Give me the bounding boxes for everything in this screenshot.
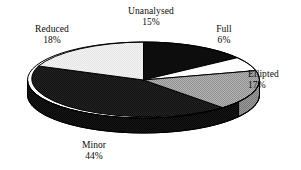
- pie-label-reduced-percent: 18%: [12, 35, 92, 46]
- pie-label-full-name: Full: [194, 24, 254, 35]
- pie-label-unanalysed-name: Unanalysed: [106, 6, 196, 17]
- pie-label-minor-name: Minor: [56, 140, 132, 151]
- pie-chart: Unanalysed 15% Full 6% Ellipted 17% Mino…: [0, 0, 301, 170]
- pie-label-unanalysed-percent: 15%: [106, 17, 196, 28]
- pie-label-minor-percent: 44%: [56, 151, 132, 162]
- pie-label-reduced-name: Reduced: [12, 24, 92, 35]
- pie-label-unanalysed: Unanalysed 15%: [106, 6, 196, 27]
- pie-label-ellipted: Ellipted 17%: [248, 69, 301, 90]
- pie-label-ellipted-name: Ellipted: [248, 69, 301, 80]
- pie-label-ellipted-percent: 17%: [248, 80, 301, 91]
- pie-label-minor: Minor 44%: [56, 140, 132, 161]
- pie-label-full-percent: 6%: [194, 35, 254, 46]
- pie-label-full: Full 6%: [194, 24, 254, 45]
- pie-label-reduced: Reduced 18%: [12, 24, 92, 45]
